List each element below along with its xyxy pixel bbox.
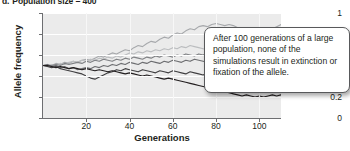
x-tick-label: 80 — [204, 121, 228, 131]
x-tick-label: 20 — [74, 121, 98, 131]
y-axis-line — [42, 13, 43, 119]
gridline-vertical — [173, 13, 174, 118]
gridline-vertical — [86, 13, 87, 118]
y-axis-title: Allele frequency — [12, 14, 23, 110]
y-tick-label: 0 — [308, 113, 342, 123]
x-axis-line — [42, 118, 281, 119]
y-tick-mark — [39, 76, 42, 77]
y-tick-mark — [39, 34, 42, 35]
y-tick-mark — [39, 55, 42, 56]
annotation-text: After 100 generations of a large populat… — [213, 33, 342, 79]
y-tick-mark — [39, 97, 42, 98]
figure-title: d.Population size = 400 — [2, 0, 96, 6]
panel-label: d. — [2, 0, 9, 6]
y-tick-label: 1 — [308, 8, 342, 18]
x-tick-label: 100 — [247, 121, 271, 131]
x-tick-label: 40 — [118, 121, 142, 131]
y-tick-label: 0.2 — [308, 92, 342, 102]
y-tick-mark — [39, 13, 42, 14]
gridline-vertical — [130, 13, 131, 118]
y-tick-mark — [39, 118, 42, 119]
gridline-horizontal — [43, 13, 281, 14]
gridline-horizontal — [43, 97, 281, 98]
x-tick-label: 60 — [161, 121, 185, 131]
panel-title-text: Population size = 400 — [12, 0, 96, 6]
x-axis-title: Generations — [43, 132, 281, 143]
annotation-callout: After 100 generations of a large populat… — [204, 27, 350, 93]
